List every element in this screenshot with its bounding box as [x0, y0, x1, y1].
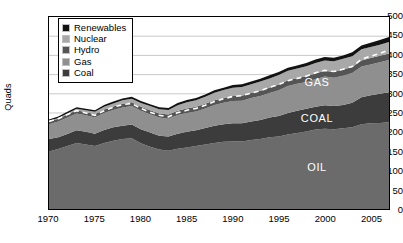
legend-label: Renewables — [74, 23, 126, 33]
x-tick-1985: 1985 — [167, 214, 207, 224]
legend-label: Gas — [74, 57, 91, 67]
band-label-gas: GAS — [305, 76, 330, 88]
legend-swatch-icon-renewables — [63, 25, 69, 31]
legend-swatch-icon-nuclear — [63, 36, 69, 42]
legend-item-renewables[interactable]: Renewables — [63, 22, 126, 33]
x-tick-2005: 2005 — [352, 214, 392, 224]
x-tick-1990: 1990 — [213, 214, 253, 224]
legend-label: Hydro — [74, 45, 99, 55]
x-tick-2000: 2000 — [305, 214, 345, 224]
energy-consumption-stacked-area-chart: Quads 050100150200250300350400450500 197… — [0, 0, 403, 243]
legend-item-hydro[interactable]: Hydro — [63, 45, 126, 56]
legend-item-gas[interactable]: Gas — [63, 56, 126, 67]
legend-swatch-icon-hydro — [63, 47, 69, 53]
legend-item-nuclear[interactable]: Nuclear — [63, 33, 126, 44]
x-tick-1980: 1980 — [120, 214, 160, 224]
band-label-oil: OIL — [307, 161, 327, 173]
chart-legend: RenewablesNuclearHydroGasCoal — [58, 18, 133, 83]
legend-item-coal[interactable]: Coal — [63, 68, 126, 79]
legend-label: Coal — [74, 68, 94, 78]
y-axis-title: Quads — [3, 67, 13, 127]
legend-swatch-icon-coal — [63, 70, 69, 76]
band-label-coal: COAL — [301, 112, 333, 124]
legend-swatch-icon-gas — [63, 59, 69, 65]
legend-label: Nuclear — [74, 34, 107, 44]
x-tick-1970: 1970 — [28, 214, 68, 224]
x-tick-1975: 1975 — [74, 214, 114, 224]
x-tick-1995: 1995 — [259, 214, 299, 224]
